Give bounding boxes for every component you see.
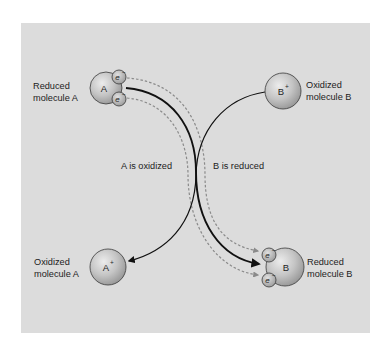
molecule-b-reduced-symbol: B [283,262,289,273]
label-b-is-reduced: B is reduced [213,161,264,171]
electron-charge: − [122,91,126,98]
electron-symbol: e [265,251,270,260]
electron-charge: − [122,69,126,76]
electron-charge: − [272,247,276,254]
label-oxidized-b-line1: Oxidized [306,80,342,90]
molecule-b-charge: + [285,83,289,90]
label-oxidized-a-line2: molecule A [34,269,80,279]
redox-diagram: A e − e − Reduced molecule A B + Oxidize… [0,0,387,347]
label-reduced-b-line2: molecule B [307,269,352,279]
label-oxidized-b-line2: molecule B [306,92,351,102]
electron-symbol: e [265,276,270,285]
label-a-is-oxidized: A is oxidized [121,161,172,171]
molecule-b-symbol: B [278,86,284,97]
label-oxidized-a-line1: Oxidized [34,257,70,267]
diagram-canvas: A e − e − Reduced molecule A B + Oxidize… [0,0,387,347]
molecule-a-plus-charge: + [110,259,114,266]
molecule-a-symbol: A [101,83,108,94]
electron-symbol: e [115,95,120,104]
molecule-a-plus-symbol: A [103,262,110,273]
electron-charge: − [272,272,276,279]
label-reduced-b-line1: Reduced [307,257,344,267]
label-reduced-a-line2: molecule A [33,93,79,103]
electron-symbol: e [115,73,120,82]
label-reduced-a-line1: Reduced [33,81,70,91]
